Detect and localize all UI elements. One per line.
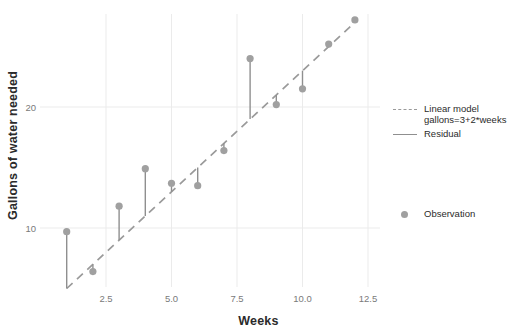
observation-point bbox=[89, 268, 96, 275]
observation-point bbox=[142, 165, 149, 172]
x-axis-tick-label: 2.5 bbox=[99, 293, 112, 304]
observation-point bbox=[220, 147, 227, 154]
observation-point bbox=[299, 85, 306, 92]
observation-point bbox=[351, 16, 358, 23]
observation-point bbox=[194, 182, 201, 189]
x-axis-tick-label: 7.5 bbox=[230, 293, 243, 304]
legend-item-observation[interactable]: Observation bbox=[392, 208, 512, 222]
dashed-line-icon bbox=[392, 103, 418, 117]
observation-point bbox=[247, 55, 254, 62]
legend-label-linear-model: Linear model gallons=3+2*weeks bbox=[424, 103, 506, 125]
grid-lines bbox=[40, 14, 380, 287]
linear-model-line bbox=[67, 22, 355, 288]
observation-point bbox=[273, 101, 280, 108]
linear-model-dashed-line bbox=[67, 22, 355, 288]
chart-legend: Linear model gallons=3+2*weeks Residual … bbox=[392, 103, 512, 225]
x-axis-tick-label: 12.5 bbox=[359, 293, 378, 304]
legend-group-points: Observation bbox=[392, 208, 512, 222]
observation-points bbox=[63, 16, 358, 275]
x-axis-title: Weeks bbox=[0, 314, 517, 328]
observation-point bbox=[116, 203, 123, 210]
x-axis-tick-label: 10.0 bbox=[293, 293, 312, 304]
point-marker-icon bbox=[392, 208, 418, 222]
observation-point bbox=[168, 180, 175, 187]
legend-label-observation: Observation bbox=[424, 208, 475, 219]
chart-container: 2.55.07.510.012.5 1020 Weeks Gallons of … bbox=[0, 0, 517, 336]
y-axis-title: Gallons of water needed bbox=[2, 0, 24, 290]
legend-group-lines: Linear model gallons=3+2*weeks Residual bbox=[392, 103, 512, 142]
legend-item-residual[interactable]: Residual bbox=[392, 128, 512, 142]
observation-point bbox=[63, 228, 70, 235]
observation-point bbox=[325, 40, 332, 47]
x-axis-tick-label: 5.0 bbox=[165, 293, 178, 304]
legend-item-linear-model[interactable]: Linear model gallons=3+2*weeks bbox=[392, 103, 512, 125]
legend-spacer bbox=[392, 145, 512, 208]
solid-line-icon bbox=[392, 128, 418, 142]
legend-label-residual: Residual bbox=[424, 128, 461, 139]
